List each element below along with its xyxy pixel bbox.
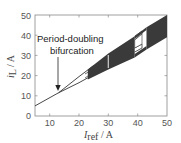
- x-tick-label: 10: [45, 118, 55, 128]
- annotation-line2: bifurcation: [50, 45, 94, 56]
- bifurcation-chart: 10 20 30 40 50 0 10 20 30 40 50 Iref / A…: [0, 0, 181, 143]
- y-axis-label: iL / A: [5, 54, 18, 78]
- annotation-line1: Period-doubling: [37, 33, 104, 44]
- x-axis-label: Iref / A: [83, 129, 114, 142]
- y-tick-label: 20: [21, 71, 31, 81]
- y-tick-label: 30: [21, 51, 31, 61]
- x-tick-label: 20: [74, 118, 84, 128]
- arrow-head-icon: [55, 85, 60, 91]
- plot-data: [35, 15, 167, 106]
- x-tick-label: 40: [133, 118, 143, 128]
- y-tick-label: 0: [26, 111, 31, 121]
- chaotic-band: [147, 15, 168, 49]
- y-tick-label: 50: [21, 11, 31, 21]
- period-1-branch: [35, 93, 59, 106]
- x-tick-label: 50: [162, 118, 172, 128]
- x-tick-label: 30: [103, 118, 113, 128]
- y-tick-label: 10: [21, 91, 31, 101]
- y-tick-label: 40: [21, 31, 31, 41]
